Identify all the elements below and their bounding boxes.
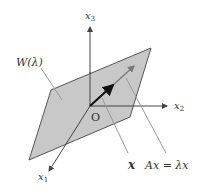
origin-label: O (91, 111, 100, 124)
x3-label: x3 (85, 10, 95, 23)
image-label: Ax = λx (144, 159, 189, 172)
vector-label: x (127, 158, 136, 172)
image-leader-line (126, 78, 166, 153)
eigenspace-diagram: W(λ) O x3 x2 x1 x Ax = λx (0, 0, 205, 196)
subspace-label: W(λ) (16, 56, 43, 69)
x2-label: x2 (174, 100, 184, 113)
x1-label: x1 (38, 171, 48, 184)
